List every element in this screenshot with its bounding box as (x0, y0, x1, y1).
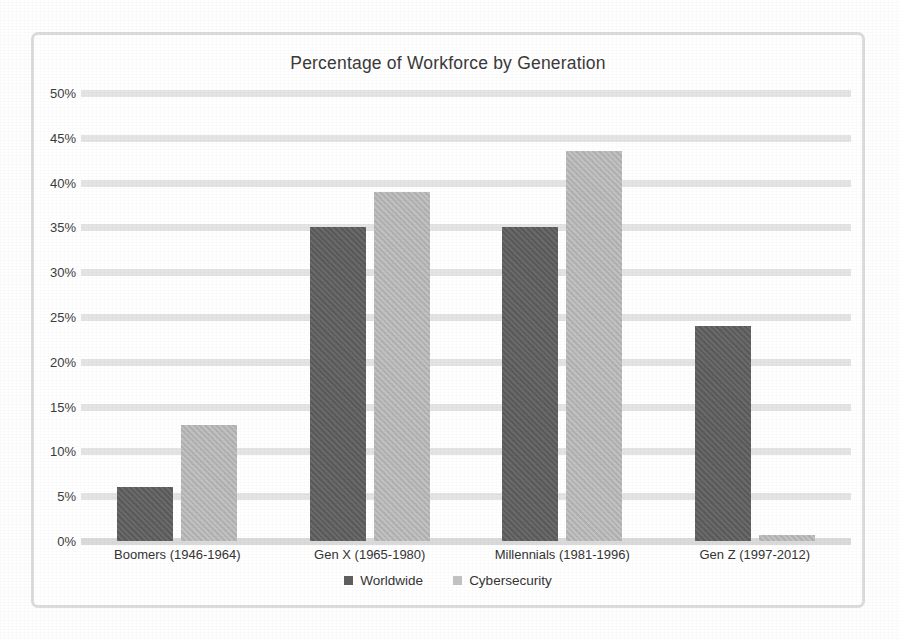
x-axis-tick-label: Millennials (1981-1996) (495, 547, 630, 562)
y-axis-tick-label: 10% (34, 444, 76, 459)
chart-title: Percentage of Workforce by Generation (34, 53, 862, 74)
bar-cybersecurity-3 (759, 535, 815, 541)
y-axis-tick-label: 40% (34, 175, 76, 190)
y-axis-tick-label: 15% (34, 399, 76, 414)
x-axis-tick-label: Boomers (1946-1964) (114, 547, 240, 562)
bar-worldwide-1 (310, 227, 366, 541)
y-axis-tick-label: 0% (34, 534, 76, 549)
y-axis-tick-label: 50% (34, 86, 76, 101)
bar-cybersecurity-0 (181, 425, 237, 541)
scanned-page: Percentage of Workforce by Generation 50… (0, 0, 900, 639)
y-axis-tick-label: 35% (34, 220, 76, 235)
y-axis-tick-label: 30% (34, 265, 76, 280)
legend-label: Cybersecurity (469, 573, 552, 588)
bar-series-group (81, 93, 851, 541)
y-axis-tick-label: 45% (34, 130, 76, 145)
legend-swatch-icon (453, 576, 462, 585)
plot-area: 50%45%40%35%30%25%20%15%10%5%0% (81, 93, 851, 541)
y-axis-tick-label: 5% (34, 489, 76, 504)
bar-worldwide-0 (117, 487, 173, 541)
legend-item-cybersecurity[interactable]: Cybersecurity (453, 573, 552, 588)
legend-item-worldwide[interactable]: Worldwide (344, 573, 423, 588)
x-axis-ticks: Boomers (1946-1964)Gen X (1965-1980)Mill… (81, 547, 851, 569)
chart-container: Percentage of Workforce by Generation 50… (31, 32, 865, 608)
bar-cybersecurity-1 (374, 192, 430, 541)
bar-worldwide-2 (502, 227, 558, 541)
y-axis-tick-label: 20% (34, 354, 76, 369)
bar-worldwide-3 (695, 326, 751, 541)
chart-legend: WorldwideCybersecurity (34, 573, 862, 588)
y-axis-tick-label: 25% (34, 310, 76, 325)
x-axis-tick-label: Gen X (1965-1980) (314, 547, 425, 562)
legend-swatch-icon (344, 576, 353, 585)
x-axis-tick-label: Gen Z (1997-2012) (699, 547, 810, 562)
legend-label: Worldwide (360, 573, 423, 588)
bar-cybersecurity-2 (566, 151, 622, 541)
